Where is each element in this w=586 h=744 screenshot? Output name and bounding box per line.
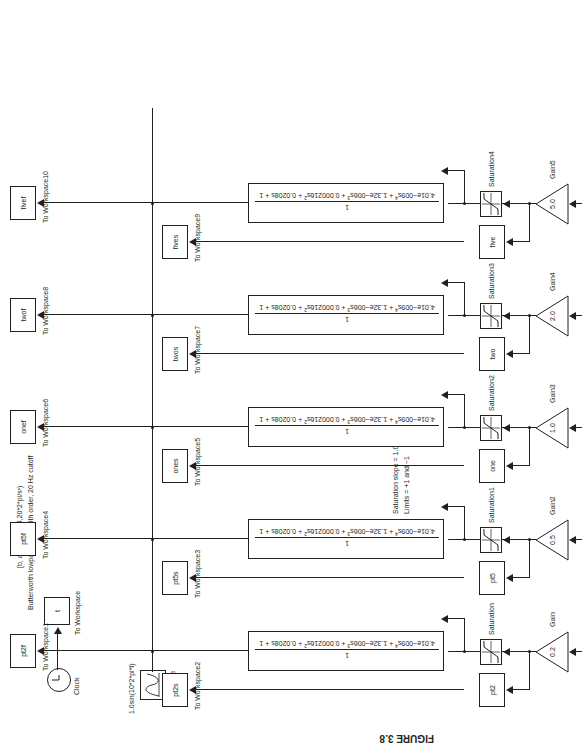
wire-to-raw-tap-2 [196,465,464,466]
wire-raw-tap-up-4 [513,241,530,242]
saturation-block-1[interactable] [480,527,502,553]
saturation-block-2[interactable] [480,415,502,441]
wire-tf-in-1 [464,506,465,540]
wire-raw-tap-up-1 [513,577,530,578]
wire-sine-to-gain-1 [576,539,582,540]
transfer-function-block-1[interactable]: 1 4.01e−009s4 + 1.32e−006s3 + 0.000216s2… [248,519,444,559]
arrow-to-raw-tap-0 [189,686,196,694]
raw-workspace-block-1[interactable]: pt5 [479,561,505,595]
gain-label-2: Gain3 [549,384,557,403]
gain-block-4[interactable]: 5.0 [535,183,569,225]
filtered-workspace-block-1[interactable]: pt5f [10,522,36,556]
arrow-into-tf-3 [441,279,448,287]
gain-value-4: 5.0 [549,183,556,225]
tf-numerator-3: 1 [345,317,349,324]
wire-to-raw-tap-4 [196,241,464,242]
arrow-sine-to-gain-0 [569,648,576,656]
wire-tf-in-up-4 [448,170,465,171]
raw-workspace-block-0[interactable]: pt2 [479,673,505,707]
filtered-workspace-block-2[interactable]: onef [10,410,36,444]
wire-to-raw-tap-1 [196,577,464,578]
filtered-workspace-block-4[interactable]: fivef [10,186,36,220]
wire-tf-in-3 [464,282,465,316]
arrow-into-tf-4 [441,167,448,175]
saturation-icon [481,304,501,328]
channel-layer: 0.2 Gain pt2 Saturation 1 4.01e−009s4 + … [430,0,586,728]
wire-raw-tap-0 [529,651,530,690]
arrow-to-filtered-4 [37,199,44,207]
transfer-function-block-2[interactable]: 1 4.01e−009s4 + 1.32e−006s3 + 0.000216s2… [248,407,444,447]
transfer-function-block-4[interactable]: 1 4.01e−009s4 + 1.32e−006s3 + 0.000216s2… [248,183,444,223]
arrow-to-filtered-3 [37,311,44,319]
transfer-function-block-0[interactable]: 1 4.01e−009s4 + 1.32e−006s3 + 0.000216s2… [248,631,444,671]
wire-to-raw-tap-3 [196,353,464,354]
gain-label-0: Gain [549,612,557,627]
tf-numerator-4: 1 [345,205,349,212]
arrow-to-raw-tap-3 [189,350,196,358]
transfer-function-block-3[interactable]: 1 4.01e−009s4 + 1.32e−006s3 + 0.000216s2… [248,295,444,335]
saturation-block-4[interactable] [480,191,502,217]
arrow-to-saturation-0 [503,648,510,656]
wire-tf-to-filtered-2 [44,426,248,427]
tf-denominator-0: 4.01e−009s4 + 1.32e−006s3 + 0.000216s2 +… [259,641,434,648]
gain-value-1: 0.5 [549,519,556,561]
gain-value-3: 2.0 [549,295,556,337]
tf-denominator-2: 4.01e−009s4 + 1.32e−006s3 + 0.000216s2 +… [259,417,434,424]
wire-sine-to-gain-3 [576,315,582,316]
wire-raw-tap-up-3 [513,353,530,354]
wire-sine-to-gain-2 [576,427,582,428]
filtered-workspace-block-0[interactable]: pt2f [10,634,36,668]
gain-block-0[interactable]: 0.2 [535,631,569,673]
sine-expression-label: 1.0sin(10*2*pi*t) [128,663,136,714]
wire-tf-in-up-0 [448,618,465,619]
figure-caption: FIGURE 3.8 [380,733,434,744]
filtered-workspace-block-3[interactable]: twof [10,298,36,332]
gain-block-2[interactable]: 1.0 [535,407,569,449]
gain-label-4: Gain5 [549,160,557,179]
arrow-to-saturation-1 [503,536,510,544]
arrow-raw-tap-0 [506,686,513,694]
raw-workspace-block-4[interactable]: five [479,225,505,259]
wire-tf-in-0 [464,618,465,652]
to-workspace-time-block[interactable]: t [44,597,70,625]
tf-denominator-3: 4.01e−009s4 + 1.32e−006s3 + 0.000216s2 +… [259,305,434,312]
arrow-raw-tap-3 [506,350,513,358]
saturation-label-1: Saturation1 [488,487,496,523]
wire-sine-bus [152,108,153,672]
gain-block-3[interactable]: 2.0 [535,295,569,337]
gain-value-2: 1.0 [549,407,556,449]
wire-raw-tap-up-2 [513,465,530,466]
arrow-to-saturation-2 [503,424,510,432]
raw-tap-block-0[interactable]: pt2s [162,673,188,707]
wire-to-raw-tap-0 [196,689,464,690]
wire-raw-tap-up-0 [513,689,530,690]
arrow-sine-to-gain-2 [569,424,576,432]
gain-block-1[interactable]: 0.5 [535,519,569,561]
saturation-annotation-line1: Saturation slope = 1.0 [392,446,400,514]
clock-icon[interactable] [47,668,71,692]
tf-numerator-2: 1 [345,429,349,436]
raw-tap-block-1[interactable]: pt5s [162,561,188,595]
raw-tap-block-2[interactable]: ones [162,449,188,483]
tf-numerator-0: 1 [345,653,349,660]
raw-workspace-block-2[interactable]: one [479,449,505,483]
saturation-icon [481,416,501,440]
raw-workspace-block-3[interactable]: two [479,337,505,371]
arrow-sine-to-gain-4 [569,200,576,208]
raw-tap-block-4[interactable]: fives [162,225,188,259]
arrow-to-filtered-2 [37,423,44,431]
arrow-raw-tap-2 [506,462,513,470]
arrow-raw-tap-4 [506,238,513,246]
arrow-sine-to-gain-1 [569,536,576,544]
wire-tf-in-4 [464,170,465,204]
raw-tap-block-3[interactable]: twos [162,337,188,371]
arrow-raw-tap-1 [506,574,513,582]
wire-sine-to-gain-0 [576,651,582,652]
wire-raw-tap-1 [529,539,530,578]
saturation-label-3: Saturation3 [488,263,496,299]
wire-raw-tap-3 [529,315,530,354]
wire-tf-to-filtered-1 [44,538,248,539]
saturation-block-0[interactable] [480,639,502,665]
wire-tf-to-filtered-4 [44,202,248,203]
saturation-block-3[interactable] [480,303,502,329]
